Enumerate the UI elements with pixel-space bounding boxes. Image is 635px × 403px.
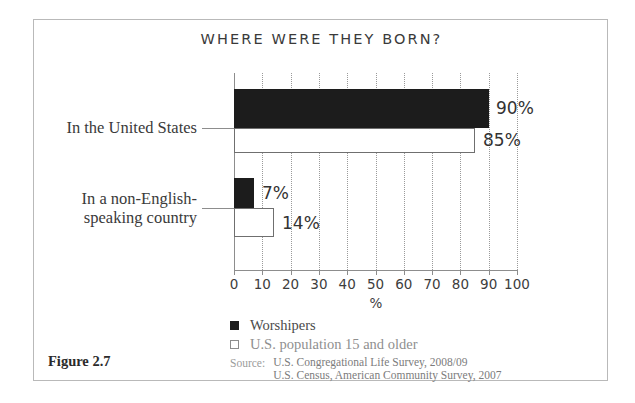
bar-value-nonenglish-worshipers: 7% [262,183,289,203]
legend-swatch-hollow-icon [230,340,239,349]
chart-title: WHERE WERE THEY BORN? [34,31,609,47]
tick-mark-60 [404,270,405,275]
tick-mark-100 [517,270,518,275]
bar-nonenglish-population [234,208,274,237]
figure-container: WHERE WERE THEY BORN? 90% 85% 7% 14% In … [33,19,608,381]
x-axis-title: % [234,295,518,311]
bar-value-nonenglish-population: 14% [282,213,320,233]
tick-mark-90 [489,270,490,275]
bar-value-us-worshipers: 90% [496,98,534,118]
gridline-90 [489,73,490,270]
source-label: Source: [230,356,265,369]
bar-us-population [234,128,475,153]
tick-mark-30 [319,270,320,275]
source-line-1: U.S. Congregational Life Survey, 2008/09 [273,356,501,369]
figure-caption: Figure 2.7 [48,353,111,370]
tick-mark-0 [234,270,235,275]
bar-value-us-population: 85% [483,130,521,150]
legend-item-us-population: U.S. population 15 and older [230,336,418,353]
tick-mark-40 [347,270,348,275]
tick-label-100: 100 [500,276,534,292]
source-lines: U.S. Congregational Life Survey, 2008/09… [273,356,501,382]
tick-mark-20 [291,270,292,275]
source-line-2: U.S. Census, American Community Survey, … [273,369,501,382]
legend-item-worshipers: Worshipers [230,317,418,334]
tick-mark-80 [460,270,461,275]
legend-label-worshipers: Worshipers [250,317,316,334]
tick-mark-70 [432,270,433,275]
legend-label-us-population: U.S. population 15 and older [250,336,418,353]
category-label-united-states: In the United States [34,118,197,137]
tick-mark-50 [376,270,377,275]
chart-legend: Worshipers U.S. population 15 and older [230,317,418,355]
bar-us-worshipers [234,89,489,128]
leader-line-nonenglish [202,208,234,209]
leader-line-united-states [202,128,234,129]
bar-nonenglish-worshipers [234,178,254,208]
category-label-nonenglish-line1: In a non-English- [34,189,197,208]
legend-swatch-filled-icon [230,321,239,330]
source-note: Source: U.S. Congregational Life Survey,… [230,356,501,382]
category-label-nonenglish-line2: speaking country [34,208,197,227]
tick-mark-10 [262,270,263,275]
